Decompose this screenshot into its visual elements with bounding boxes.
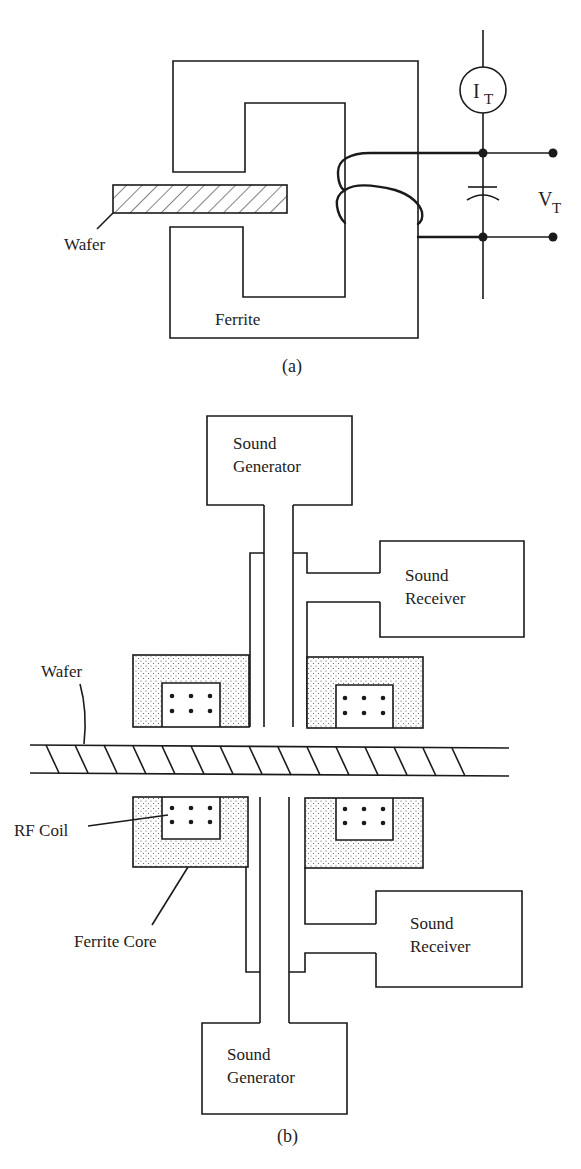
ferrite-core-upper-right bbox=[307, 657, 423, 728]
sound-receiver-top-line1: Sound bbox=[405, 566, 449, 585]
panel-b: Sound Generator Sound Receiver bbox=[14, 416, 524, 1147]
caption-a: (a) bbox=[282, 356, 302, 377]
ferrite-core-leader bbox=[152, 867, 188, 925]
wafer-b-leader bbox=[80, 684, 85, 744]
sound-generator-bottom: Sound Generator bbox=[202, 1023, 347, 1114]
ferrite-core-lower-left bbox=[133, 797, 248, 867]
sound-receiver-top: Sound Receiver bbox=[380, 541, 524, 637]
ferrite-label: Ferrite bbox=[215, 310, 260, 329]
coil-a bbox=[337, 153, 482, 237]
rf-coil-upper-left bbox=[170, 694, 213, 714]
rf-coil-label: RF Coil bbox=[14, 821, 69, 840]
sound-receiver-bottom-line1: Sound bbox=[410, 914, 454, 933]
figure-canvas: I T V T Wafer Ferrite (a) bbox=[0, 0, 581, 1169]
ferrite-core-upper-left bbox=[133, 655, 249, 727]
inner-stem-upper bbox=[264, 505, 293, 727]
sound-receiver-bottom-line2: Receiver bbox=[410, 937, 471, 956]
sound-generator-top: Sound Generator bbox=[207, 416, 352, 505]
panel-a: I T V T Wafer Ferrite (a) bbox=[64, 30, 561, 377]
ferrite-core-label: Ferrite Core bbox=[74, 932, 157, 951]
sound-generator-bottom-line1: Sound bbox=[227, 1045, 271, 1064]
sound-generator-top-line2: Generator bbox=[233, 457, 301, 476]
terminal-bottom bbox=[549, 233, 558, 242]
sound-generator-top-line1: Sound bbox=[233, 434, 277, 453]
wafer-a bbox=[113, 185, 287, 213]
caption-b: (b) bbox=[277, 1126, 298, 1147]
current-meter-label: I bbox=[473, 80, 480, 102]
sound-generator-bottom-line2: Generator bbox=[227, 1068, 295, 1087]
current-meter: I T bbox=[460, 67, 506, 113]
junction-node-bottom bbox=[479, 233, 488, 242]
wafer-label-a: Wafer bbox=[64, 235, 105, 254]
inner-stem-lower bbox=[260, 797, 289, 1023]
junction-node-top bbox=[479, 149, 488, 158]
ferrite-core-lower-right bbox=[305, 798, 423, 868]
rf-coil-lower-left bbox=[170, 806, 213, 825]
rf-coil-lower-right bbox=[343, 807, 386, 826]
voltage-label: V bbox=[538, 188, 553, 210]
terminal-top bbox=[549, 149, 558, 158]
wafer-b bbox=[30, 745, 509, 776]
voltage-subscript: T bbox=[552, 200, 561, 216]
sound-receiver-bottom: Sound Receiver bbox=[376, 891, 522, 987]
wafer-a-leader bbox=[97, 213, 113, 229]
rf-coil-upper-right bbox=[343, 696, 386, 716]
current-meter-subscript: T bbox=[484, 91, 493, 107]
wafer-label-b: Wafer bbox=[41, 662, 82, 681]
sound-receiver-top-line2: Receiver bbox=[405, 589, 466, 608]
